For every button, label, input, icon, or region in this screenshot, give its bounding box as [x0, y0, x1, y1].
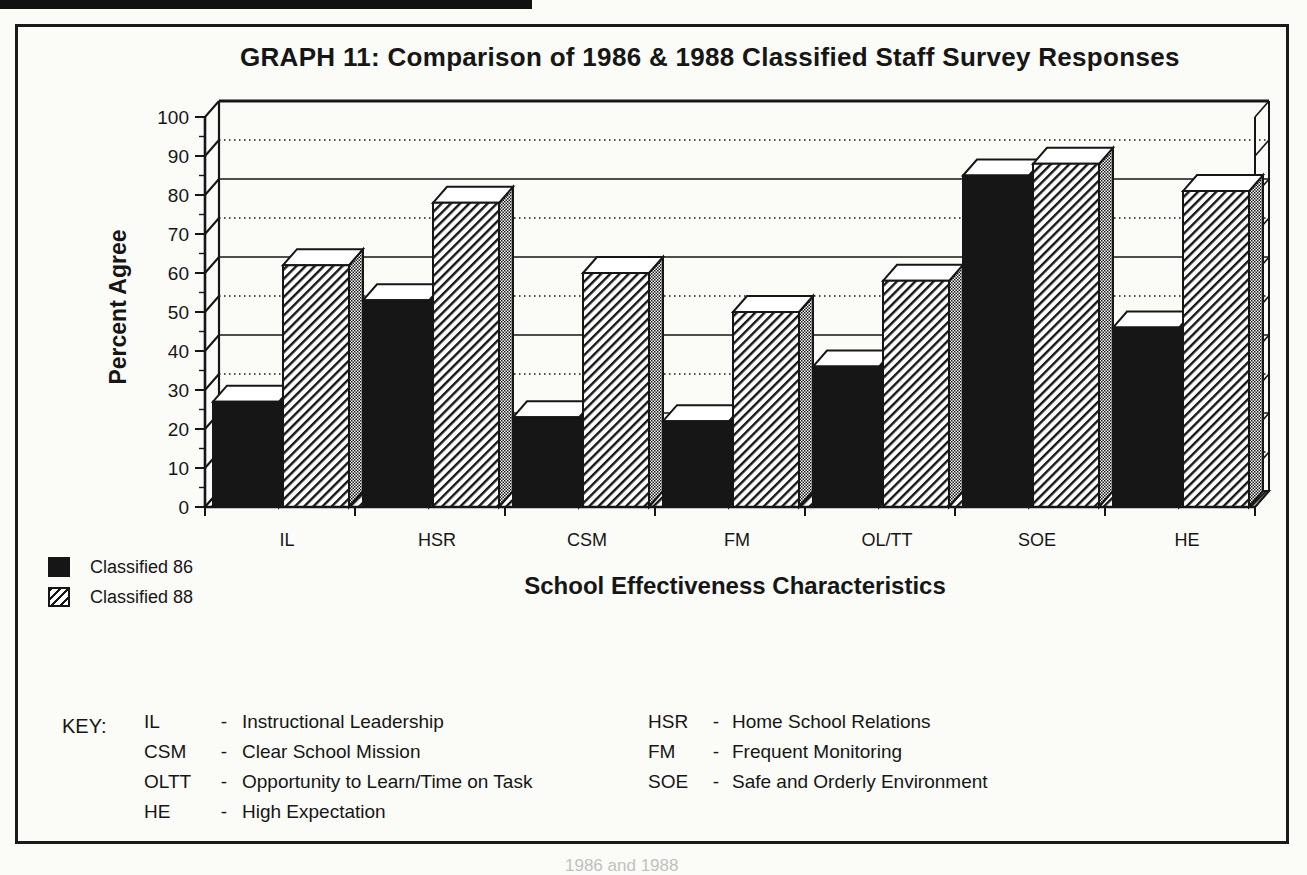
key-definition: Safe and Orderly Environment [732, 771, 988, 793]
svg-text:OL/TT: OL/TT [861, 530, 912, 550]
key-definition: Home School Relations [732, 711, 988, 733]
key-abbr: IL [144, 711, 206, 733]
key-abbr: OLTT [144, 771, 206, 793]
key-definition: Opportunity to Learn/Time on Task [242, 771, 532, 793]
key-abbr: CSM [144, 741, 206, 763]
svg-text:CSM: CSM [567, 530, 607, 550]
key-separator: - [700, 741, 732, 763]
svg-text:SOE: SOE [1018, 530, 1056, 550]
svg-text:80: 80 [168, 185, 189, 206]
key-row: HSR - Home School Relations [648, 711, 988, 741]
key-separator: - [206, 711, 242, 733]
partial-caption: 1986 and 1988 [565, 856, 678, 875]
key-column-left: IL - Instructional Leadership CSM - Clea… [144, 711, 532, 831]
svg-text:20: 20 [168, 419, 189, 440]
key-separator: - [206, 771, 242, 793]
key-definition: Frequent Monitoring [732, 741, 988, 763]
svg-text:30: 30 [168, 380, 189, 401]
svg-text:70: 70 [168, 224, 189, 245]
chart-plot-area: 0102030405060708090100ILHSRCSMFMOL/TTSOE… [157, 101, 1269, 550]
svg-text:IL: IL [279, 530, 294, 550]
svg-text:60: 60 [168, 263, 189, 284]
key-definition: Clear School Mission [242, 741, 532, 763]
key-row: CSM - Clear School Mission [144, 741, 532, 771]
key-definition: Instructional Leadership [242, 711, 532, 733]
legend-label: Classified 86 [90, 557, 193, 578]
key-row: HE - High Expectation [144, 801, 532, 831]
key-abbr: FM [648, 741, 700, 763]
legend-swatch-solid-black-icon [48, 557, 70, 577]
svg-text:100: 100 [157, 107, 189, 128]
y-axis-title: Percent Agree [105, 229, 132, 384]
key-row: OLTT - Opportunity to Learn/Time on Task [144, 771, 532, 801]
key-row: SOE - Safe and Orderly Environment [648, 771, 988, 801]
svg-text:10: 10 [168, 458, 189, 479]
key-separator: - [206, 801, 242, 823]
key-abbr: HE [144, 801, 206, 823]
key-separator: - [700, 711, 732, 733]
legend-label: Classified 88 [90, 587, 193, 608]
key-title: KEY: [62, 715, 106, 738]
key-row: FM - Frequent Monitoring [648, 741, 988, 771]
x-axis-title: School Effectiveness Characteristics [524, 572, 946, 600]
svg-text:HE: HE [1174, 530, 1199, 550]
svg-text:40: 40 [168, 341, 189, 362]
legend-item: Classified 86 [48, 552, 193, 582]
svg-text:90: 90 [168, 146, 189, 167]
key-abbr: SOE [648, 771, 700, 793]
svg-text:50: 50 [168, 302, 189, 323]
key-definition: High Expectation [242, 801, 532, 823]
key-column-right: HSR - Home School Relations FM - Frequen… [648, 711, 988, 801]
svg-text:0: 0 [178, 497, 189, 518]
legend-item: Classified 88 [48, 582, 193, 612]
key-separator: - [206, 741, 242, 763]
svg-text:HSR: HSR [418, 530, 456, 550]
key-row: IL - Instructional Leadership [144, 711, 532, 741]
legend-swatch-diagonal-hatch-icon [48, 587, 70, 607]
svg-text:FM: FM [724, 530, 750, 550]
key-separator: - [700, 771, 732, 793]
legend: Classified 86 Classified 88 [48, 552, 193, 612]
key-abbr: HSR [648, 711, 700, 733]
